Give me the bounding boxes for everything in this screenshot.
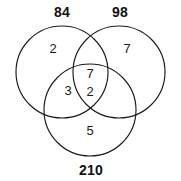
set-label-bottom: 210 (70, 163, 112, 177)
region-value-all-three: 2 (81, 85, 99, 98)
venn-diagram: 84 98 210 2 7 5 7 3 2 (0, 0, 181, 181)
region-value-left-right: 7 (81, 67, 99, 80)
region-value-left-only: 2 (44, 42, 62, 55)
set-label-left: 84 (41, 5, 83, 19)
set-label-right: 98 (99, 5, 141, 19)
region-value-bottom-only: 5 (81, 124, 99, 137)
region-value-left-bottom: 3 (59, 84, 77, 97)
region-value-right-only: 7 (118, 42, 136, 55)
